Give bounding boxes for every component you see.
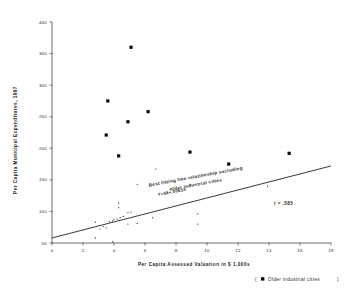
data-point-other-city [118, 203, 119, 204]
data-point-other-city [127, 212, 128, 213]
data-point-other-city [267, 186, 268, 187]
x-tick-label: 2 [82, 248, 85, 253]
data-point-other-city [109, 221, 110, 222]
data-point-other-city [127, 223, 128, 224]
data-point-other-city [99, 228, 100, 229]
data-point-other-city [116, 218, 117, 219]
y-tick-label: 300 [39, 83, 47, 88]
y-tick-label: 400 [39, 20, 47, 25]
data-point-older-industrial-city [147, 110, 150, 113]
y-tick-label: 100 [39, 209, 47, 214]
legend: ( Older industrial cities ) [255, 277, 339, 282]
data-point-older-industrial-city [105, 133, 108, 136]
y-tick-label: 50 [42, 241, 48, 246]
y-tick-label: 150 [39, 177, 47, 182]
data-point-older-industrial-city [227, 162, 230, 165]
x-tick-label: 8 [175, 248, 178, 253]
data-point-older-industrial-city [126, 120, 129, 123]
x-axis-ticks: 024681012141618 [51, 243, 334, 254]
y-tick-label: 200 [39, 146, 47, 151]
data-point-other-city [155, 169, 156, 170]
y-tick-label: 250 [39, 114, 47, 119]
y-axis-ticks: 50100150200250300350400 [39, 20, 53, 246]
x-tick-label: 6 [144, 248, 147, 253]
data-point-other-city [95, 237, 96, 238]
x-tick-label: 4 [113, 248, 116, 253]
data-point-other-city [137, 184, 138, 185]
y-axis-title: Per Capita Municipal Expenditures, 1967 [13, 86, 18, 194]
data-point-other-city [112, 241, 113, 242]
data-point-other-city [113, 219, 114, 220]
data-point-other-city [137, 223, 138, 224]
data-point-other-city [106, 227, 107, 228]
legend-label: Older industrial cities [268, 277, 320, 282]
x-tick-label: 12 [235, 248, 241, 253]
data-point-older-industrial-city [129, 46, 132, 49]
y-tick-label: 350 [39, 51, 47, 56]
data-point-other-city [123, 216, 124, 217]
correlation-coefficient: r = .585 [274, 201, 293, 206]
x-axis-title: Per Capita Assessed Valuation in $ 1,000… [138, 262, 250, 267]
x-tick-label: 18 [328, 248, 334, 253]
x-tick-label: 16 [297, 248, 303, 253]
chart-figure: 50100150200250300350400 024681012141618 … [0, 0, 349, 289]
data-point-other-city [95, 222, 96, 223]
data-point-other-city [130, 211, 131, 212]
data-points-older-industrial-cities [105, 46, 291, 166]
data-point-older-industrial-city [117, 154, 120, 157]
data-point-other-city [118, 207, 119, 208]
axes-group [52, 22, 331, 243]
legend-close-paren: ) [337, 277, 339, 282]
data-point-older-industrial-city [288, 152, 291, 155]
data-point-other-city [197, 223, 198, 224]
data-point-other-city [112, 220, 113, 221]
x-tick-label: 0 [51, 248, 54, 253]
data-point-other-city [103, 226, 104, 227]
legend-marker-square [261, 277, 264, 280]
data-point-other-city [152, 217, 153, 218]
data-point-other-city [120, 217, 121, 218]
legend-open-paren: ( [255, 277, 257, 282]
x-tick-label: 14 [266, 248, 272, 253]
data-point-other-city [197, 213, 198, 214]
x-tick-label: 10 [204, 248, 210, 253]
scatter-plot-svg: 50100150200250300350400 024681012141618 … [0, 0, 349, 289]
data-point-older-industrial-city [188, 150, 191, 153]
data-point-older-industrial-city [106, 99, 109, 102]
